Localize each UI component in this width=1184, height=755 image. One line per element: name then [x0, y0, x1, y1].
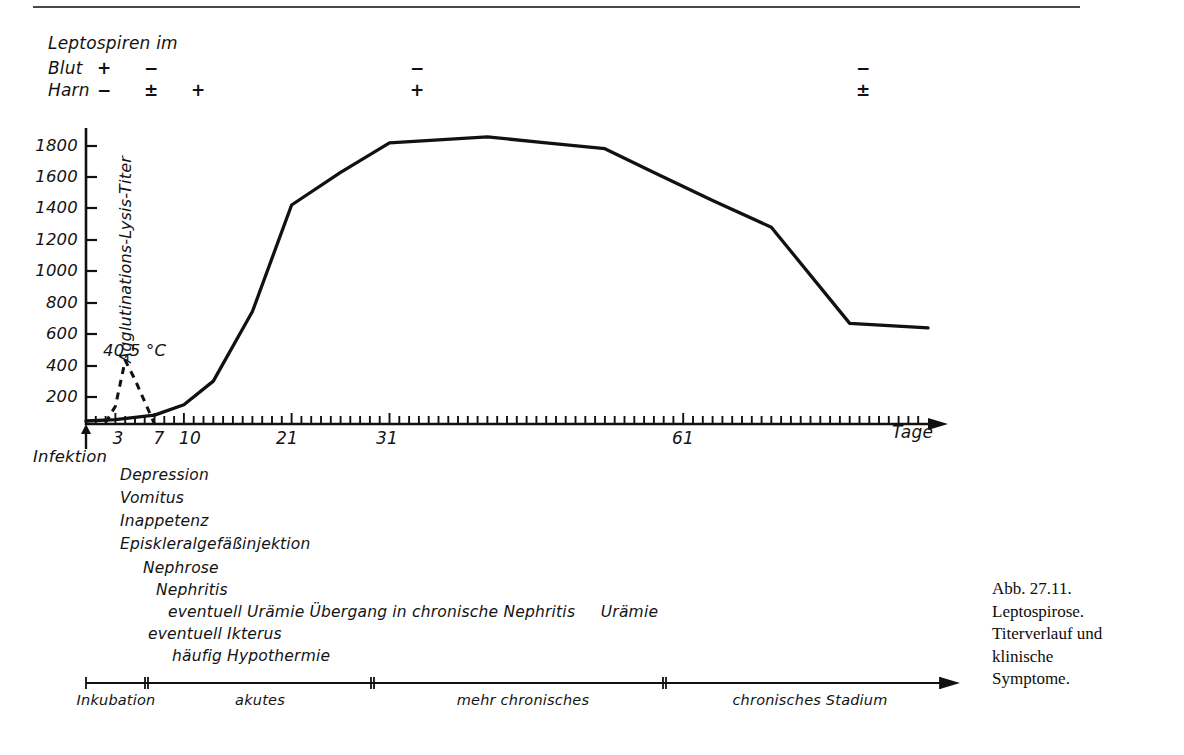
xtick-label-10: 10 [170, 428, 210, 448]
infektion-label: Infektion [33, 447, 107, 466]
blut-mark-day31: − [406, 58, 428, 78]
fever-peak-label: 40,5 °C [103, 341, 166, 360]
figure-page: Leptospiren im Blut Harn + − − − − ± + +… [0, 0, 1184, 755]
xtick-label-3: 3 [98, 428, 138, 448]
stage-label-mehr-chronisches: mehr chronisches [448, 692, 598, 708]
titer-curve [86, 137, 928, 421]
blut-mark-late: − [852, 58, 874, 78]
stage-label-chronisches-stadium: chronisches Stadium [720, 692, 900, 708]
symptom-depression: Depression [120, 466, 209, 484]
ytick-label-400: 400 [24, 356, 78, 375]
caption-line-4: klinische [992, 646, 1177, 669]
stage-bar [86, 677, 960, 689]
harn-mark-day7: ± [140, 80, 162, 100]
blut-mark-day7: − [140, 58, 162, 78]
symptom-vomitus: Vomitus [120, 489, 184, 507]
stage-label-akutes: akutes [200, 692, 320, 708]
symptom-episkleralgefaessinjektion: Episkleralgefäßinjektion [120, 535, 311, 553]
xtick-label-21: 21 [267, 428, 307, 448]
symptom-ikterus: eventuell Ikterus [148, 625, 282, 643]
y-tick-marks [86, 146, 97, 397]
infektion-arrow [81, 424, 91, 449]
ytick-label-1600: 1600 [24, 167, 78, 186]
leptospiren-row-blut-label: Blut [48, 58, 83, 78]
top-divider-rule [33, 6, 1080, 8]
harn-mark-day3: − [93, 80, 115, 100]
figure-caption: Abb. 27.11. Leptospirose. Titerverlauf u… [992, 578, 1177, 691]
caption-line-3: Titerverlauf und [992, 623, 1177, 646]
ytick-label-800: 800 [24, 293, 78, 312]
symptom-nephritis: Nephritis [156, 581, 228, 599]
ytick-label-1200: 1200 [24, 230, 78, 249]
ytick-label-1000: 1000 [24, 261, 78, 280]
blut-mark-day3: + [93, 58, 115, 78]
stage-label-inkubation: Inkubation [66, 692, 166, 708]
caption-line-1: Abb. 27.11. [992, 578, 1177, 601]
symptom-inappetenz: Inappetenz [120, 512, 209, 530]
caption-line-2: Leptospirose. [992, 601, 1177, 624]
symptom-uraemie-uebergang: eventuell Urämie Übergang in chronische … [168, 603, 658, 621]
xtick-label-61: 61 [663, 428, 703, 448]
x-tick-marks [96, 413, 918, 423]
ytick-label-200: 200 [24, 387, 78, 406]
xtick-label-31: 31 [367, 428, 407, 448]
symptom-nephrose: Nephrose [143, 559, 219, 577]
ytick-label-1800: 1800 [24, 136, 78, 155]
ytick-label-600: 600 [24, 324, 78, 343]
harn-mark-day10: + [187, 80, 209, 100]
ytick-label-1400: 1400 [24, 198, 78, 217]
caption-line-5: Symptome. [992, 668, 1177, 691]
leptospiren-title: Leptospiren im [48, 33, 178, 53]
leptospiren-row-harn-label: Harn [48, 80, 90, 100]
x-axis-unit-label: Tage [892, 422, 933, 442]
symptom-hypothermie: häufig Hypothermie [172, 647, 330, 665]
harn-mark-late: ± [852, 80, 874, 100]
harn-mark-day31: + [406, 80, 428, 100]
